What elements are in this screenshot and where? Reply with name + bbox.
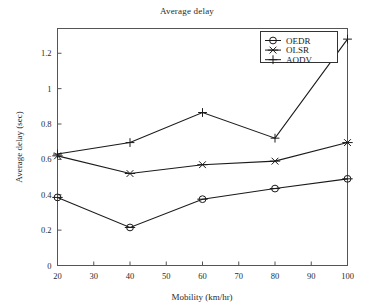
data-point-circle (197, 196, 207, 203)
legend-label: AODV (286, 55, 312, 65)
x-tick-label: 70 (235, 271, 244, 281)
series-olsr (52, 139, 352, 177)
y-tick-label: 0.4 (41, 190, 52, 200)
y-axis-ticks (58, 53, 62, 265)
data-point-plus (126, 138, 135, 147)
y-tick-label: 0.6 (41, 154, 52, 164)
legend-label: OLSR (286, 45, 309, 55)
x-tick-label: 30 (90, 271, 99, 281)
x-tick-label: 100 (341, 271, 354, 281)
x-tick-label: 20 (53, 271, 62, 281)
y-tick-label: 1 (47, 84, 51, 94)
plot-area: 2030405060708090100 00.20.40.60.811.2 Mo… (0, 0, 374, 307)
series-oedr (52, 175, 352, 230)
x-axis-tick-labels: 2030405060708090100 (53, 271, 354, 281)
data-point-plus (271, 134, 280, 143)
y-tick-label: 0 (47, 261, 51, 271)
y-tick-label: 0.8 (41, 119, 52, 129)
y-axis-tick-labels: 00.20.40.60.811.2 (41, 48, 52, 270)
chart-legend[interactable]: OEDROLSRAODV (261, 32, 338, 65)
x-tick-label: 50 (162, 271, 171, 281)
data-point-x (197, 161, 207, 168)
y-tick-label: 1.2 (41, 48, 52, 58)
x-axis-title: Mobility (km/hr) (171, 292, 232, 302)
x-tick-label: 90 (307, 271, 316, 281)
data-point-circle (125, 224, 135, 231)
x-tick-label: 40 (126, 271, 135, 281)
x-tick-label: 80 (271, 271, 280, 281)
data-point-plus (198, 108, 207, 117)
legend-item-oedr[interactable]: OEDR (265, 36, 311, 46)
chart-figure: Average delay 2030405060708090100 00.20.… (0, 0, 374, 307)
y-axis-title: Average delay (sec) (14, 111, 24, 182)
data-point-x (125, 170, 135, 177)
y-tick-label: 0.2 (41, 225, 52, 235)
x-axis-ticks (58, 262, 348, 266)
x-tick-label: 60 (198, 271, 207, 281)
data-point-x (270, 158, 280, 165)
data-point-circle (270, 185, 280, 192)
legend-label: OEDR (286, 36, 311, 46)
data-point-plus (343, 35, 352, 44)
